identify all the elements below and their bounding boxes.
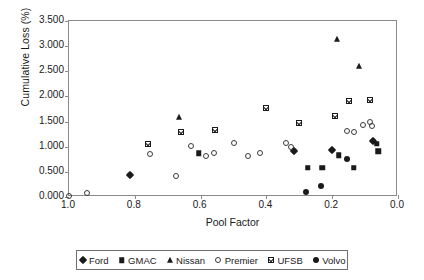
data-point-premier <box>288 144 294 150</box>
legend-label: GMAC <box>128 255 157 266</box>
y-tick-mark <box>65 147 69 148</box>
filled-square-icon <box>118 256 126 264</box>
data-point-premier <box>84 190 90 196</box>
y-tick-label: 3.500 <box>24 14 64 25</box>
y-axis-tick-labels: 0.0000.5001.0001.5002.0002.5003.0003.500 <box>22 0 64 280</box>
data-point-gmac <box>336 153 342 159</box>
data-point-gmac <box>305 165 311 171</box>
y-tick-label: 2.000 <box>24 89 64 100</box>
data-point-gmac <box>374 141 380 147</box>
data-point-ufsb <box>367 97 373 103</box>
legend-item-premier[interactable]: Premier <box>214 255 258 266</box>
x-axis-tick-labels: 1.00.80.60.40.20.0 <box>0 199 424 215</box>
legend-label: Premier <box>225 255 258 266</box>
x-tick-label: 0.6 <box>180 199 220 210</box>
data-point-ford <box>126 171 134 179</box>
data-point-gmac <box>351 165 357 171</box>
x-tick-label: 0.0 <box>377 199 417 210</box>
chart-figure: Cumulative Loss (%) 0.0000.5001.0001.500… <box>0 0 424 280</box>
legend-label: UFSB <box>277 255 302 266</box>
data-point-ufsb <box>145 141 151 147</box>
data-point-ufsb <box>346 98 352 104</box>
data-point-ufsb <box>212 127 218 133</box>
data-point-premier <box>344 128 350 134</box>
data-point-premier <box>360 122 366 128</box>
y-tick-label: 3.000 <box>24 39 64 50</box>
y-tick-mark <box>65 46 69 47</box>
y-tick-mark <box>65 96 69 97</box>
filled-circle-icon <box>312 256 320 264</box>
data-point-premier <box>211 150 217 156</box>
legend-label: Nissan <box>176 255 205 266</box>
data-point-volvo <box>318 183 324 189</box>
x-tick-label: 1.0 <box>48 199 88 210</box>
data-point-gmac <box>320 165 326 171</box>
data-point-premier <box>369 123 375 129</box>
marker-glyph <box>215 257 221 263</box>
data-point-ufsb <box>263 105 269 111</box>
x-tick-label: 0.2 <box>311 199 351 210</box>
x-tick-label: 0.8 <box>114 199 154 210</box>
legend-label: Ford <box>89 255 109 266</box>
data-point-premier <box>147 151 153 157</box>
chart-legend: FordGMACNissanPremierUFSBVolvo <box>76 250 348 270</box>
data-point-nissan <box>176 114 182 120</box>
data-point-premier <box>173 173 179 179</box>
y-tick-mark <box>65 21 69 22</box>
data-point-ufsb <box>296 120 302 126</box>
marker-glyph <box>268 257 274 263</box>
data-point-premier <box>257 150 263 156</box>
data-point-premier <box>188 143 194 149</box>
legend-label: Volvo <box>322 255 345 266</box>
data-point-premier <box>351 129 357 135</box>
y-tick-label: 2.500 <box>24 64 64 75</box>
y-tick-label: 0.500 <box>24 165 64 176</box>
data-point-volvo <box>303 189 309 195</box>
legend-item-nissan[interactable]: Nissan <box>166 255 206 266</box>
x-tick-label: 0.4 <box>245 199 285 210</box>
legend-item-ford[interactable]: Ford <box>79 255 109 266</box>
data-point-ufsb <box>178 129 184 135</box>
data-point-gmac <box>196 150 202 156</box>
data-point-ufsb <box>332 113 338 119</box>
data-point-premier <box>245 153 251 159</box>
data-point-nissan <box>356 63 362 69</box>
filled-diamond-icon <box>79 256 87 264</box>
data-point-nissan <box>334 35 340 41</box>
y-tick-mark <box>65 122 69 123</box>
y-tick-label: 1.500 <box>24 115 64 126</box>
marker-glyph <box>313 257 319 263</box>
x-axis-label: Pool Factor <box>68 216 397 228</box>
legend-item-ufsb[interactable]: UFSB <box>267 255 303 266</box>
marker-glyph <box>119 257 125 263</box>
marker-glyph <box>78 256 86 264</box>
data-point-premier <box>203 153 209 159</box>
legend-item-gmac[interactable]: GMAC <box>118 255 157 266</box>
y-tick-mark <box>65 172 69 173</box>
crossed-square-icon <box>267 256 275 264</box>
y-tick-mark <box>65 71 69 72</box>
filled-triangle-icon <box>166 256 174 264</box>
plot-area <box>68 20 397 196</box>
data-point-premier <box>231 140 237 146</box>
y-tick-label: 1.000 <box>24 140 64 151</box>
open-circle-icon <box>214 256 222 264</box>
legend-item-volvo[interactable]: Volvo <box>312 255 346 266</box>
data-point-gmac <box>376 149 382 155</box>
marker-glyph <box>167 257 173 263</box>
data-point-volvo <box>344 156 350 162</box>
